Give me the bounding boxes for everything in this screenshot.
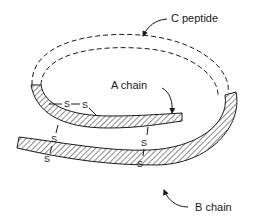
- svg-text:S: S: [51, 134, 57, 144]
- svg-text:S: S: [64, 99, 70, 109]
- svg-text:S: S: [44, 154, 50, 164]
- arrow-icon: [164, 190, 188, 207]
- svg-text:S: S: [82, 100, 88, 110]
- label-c-peptide: C peptide: [143, 12, 218, 36]
- label-a-chain: A chain: [111, 79, 172, 113]
- a-chain: [31, 85, 182, 128]
- arrow-icon: [143, 19, 167, 36]
- svg-text:C peptide: C peptide: [171, 12, 218, 24]
- arrow-icon: [162, 88, 172, 113]
- label-b-chain: B chain: [164, 190, 232, 213]
- svg-text:B chain: B chain: [195, 201, 232, 213]
- svg-text:A chain: A chain: [111, 79, 147, 91]
- svg-text:S: S: [141, 138, 147, 148]
- proinsulin-diagram: S S S S S S C peptide A chain B chain: [0, 0, 255, 223]
